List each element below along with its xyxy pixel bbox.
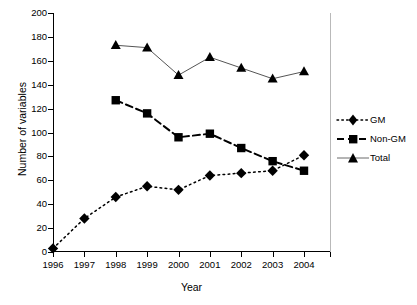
legend-label-gm: GM [370,115,385,125]
y-axis-tick-label: 40 [3,199,47,209]
legend-swatch-gm-diamond-icon [336,112,370,128]
x-axis-tick-mark [210,252,211,257]
x-axis-tick-mark [241,252,242,257]
x-axis-tick-mark [147,252,148,257]
y-axis-tick-label: 0 [3,247,47,257]
plot-area [53,13,330,252]
chart-legend: GM Non-GM Total [336,110,417,167]
x-axis-tick-mark [273,252,274,257]
legend-item-non-gm: Non-GM [336,129,417,148]
x-axis-tick-label: 2004 [282,259,326,270]
legend-item-total: Total [336,148,417,167]
legend-swatch-non-gm-square-icon [336,131,370,147]
x-axis-tick-mark [84,252,85,257]
y-axis-title: Number of variables [16,59,28,199]
plot-right-border [330,13,331,252]
y-axis-tick-label: 200 [3,8,47,18]
y-axis-tick-label: 180 [3,32,47,42]
x-axis-tick-mark [179,252,180,257]
legend-swatch-total-triangle-icon [336,150,370,166]
legend-item-gm: GM [336,110,417,129]
chart-container: 020406080100120140160180200 199619971998… [0,0,417,305]
x-axis-tick-mark [116,252,117,257]
y-axis-tick-label: 20 [3,223,47,233]
x-axis-tick-mark [304,252,305,257]
x-axis-title: Year [53,281,330,293]
x-axis-tick-mark-end [330,252,331,257]
legend-label-total: Total [370,153,390,163]
x-axis-tick-mark [53,252,54,257]
legend-label-non-gm: Non-GM [370,134,406,144]
